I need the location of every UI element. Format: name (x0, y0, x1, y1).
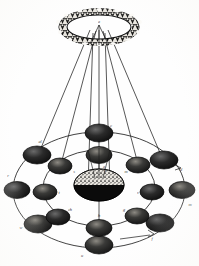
inner-satellite-5 (46, 209, 70, 225)
outer-satellite-2 (169, 182, 195, 199)
outer-satellite-7 (23, 146, 51, 164)
astronomical-diagram: a d m f u w r al c m v g h ch t s q k (0, 0, 199, 266)
outer-satellite-8 (85, 124, 113, 142)
sight-line-left-outer (36, 30, 90, 160)
outer-satellite-3 (146, 214, 174, 232)
sight-line-inner-left-2 (88, 33, 93, 186)
diagram-canvas (0, 0, 199, 266)
inner-satellite-3 (125, 208, 149, 224)
tangent-mark (120, 235, 150, 239)
outer-satellite-6 (4, 182, 30, 199)
inner-satellite-6 (33, 184, 57, 200)
outer-satellite-4 (85, 236, 113, 254)
outer-satellite-1 (150, 151, 178, 169)
ring-planet (56, 8, 142, 46)
inner-satellite-1 (126, 157, 150, 173)
inner-satellite-2 (140, 184, 164, 200)
inner-satellite-7 (48, 158, 72, 174)
inner-satellite-4 (86, 220, 112, 237)
sight-line-right-outer (108, 30, 163, 160)
